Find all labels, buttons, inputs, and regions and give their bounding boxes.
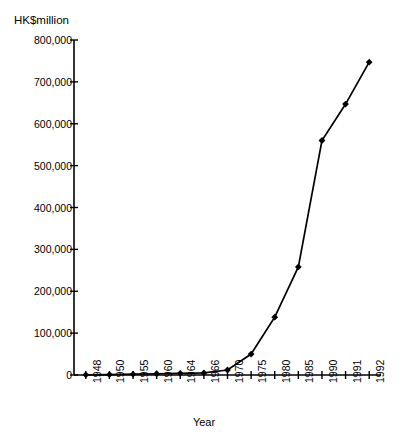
data-line-series bbox=[86, 62, 369, 375]
x-axis-title: Year bbox=[0, 416, 408, 428]
y-tick-label: 100,000 bbox=[34, 327, 72, 339]
data-point-marker bbox=[106, 371, 113, 378]
x-tick-label: 1985 bbox=[303, 360, 315, 383]
y-tick-label: 600,000 bbox=[34, 118, 72, 130]
y-tick-label: 200,000 bbox=[34, 285, 72, 297]
x-tick-label: 1980 bbox=[280, 360, 292, 383]
y-tick-label: 500,000 bbox=[34, 160, 72, 172]
data-point-marker bbox=[130, 371, 137, 378]
y-tick-label: 300,000 bbox=[34, 243, 72, 255]
x-tick-label: 1950 bbox=[114, 360, 126, 383]
x-tick-label: 1948 bbox=[91, 360, 103, 383]
x-tick-label: 1990 bbox=[327, 360, 339, 383]
chart-figure: HK$million 0100,000200,000300,000400,000… bbox=[0, 0, 408, 442]
x-tick-label: 1964 bbox=[185, 360, 197, 383]
data-point-markers bbox=[82, 59, 372, 378]
axis-lines bbox=[74, 40, 381, 375]
data-point-marker bbox=[366, 59, 373, 66]
data-point-marker bbox=[82, 371, 89, 378]
x-tick-label: 1966 bbox=[209, 360, 221, 383]
x-tick-label: 1955 bbox=[138, 360, 150, 383]
y-tick-label: 700,000 bbox=[34, 76, 72, 88]
x-tick-label: 1960 bbox=[162, 360, 174, 383]
data-point-marker bbox=[153, 370, 160, 377]
x-tick-label: 1975 bbox=[256, 360, 268, 383]
y-tick-label: 400,000 bbox=[34, 202, 72, 214]
y-tick-label: 800,000 bbox=[34, 34, 72, 46]
y-tick-label: 0 bbox=[66, 369, 72, 381]
plot-area bbox=[0, 0, 408, 442]
x-tick-label: 1970 bbox=[233, 360, 245, 383]
x-tick-label: 1991 bbox=[351, 360, 363, 383]
x-tick-label: 1992 bbox=[374, 360, 386, 383]
data-point-marker bbox=[295, 264, 302, 271]
